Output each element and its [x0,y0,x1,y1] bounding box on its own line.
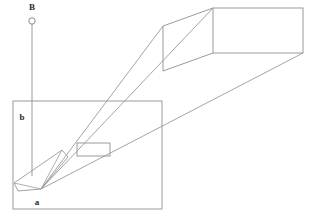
diagram-root: B b a [0,0,314,219]
label-point-a: a [35,197,40,207]
label-point-b: B [29,2,35,12]
label-region-b: b [19,112,24,122]
optical-diagram-canvas: B b a [0,0,314,219]
